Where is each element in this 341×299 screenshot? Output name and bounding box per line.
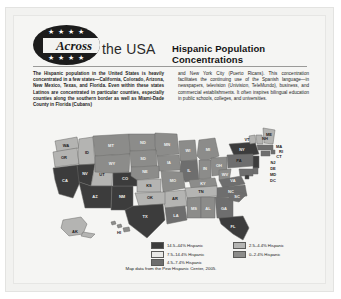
map-figure: WA OR ID MT ND MN WI MI NY VT NH ME	[33, 124, 309, 274]
state-MA	[257, 145, 273, 150]
label-GA: GA	[221, 206, 227, 211]
label-SD: SD	[140, 156, 146, 161]
label-ND: ND	[140, 140, 146, 145]
label-LA: LA	[173, 213, 178, 218]
state-AK-tail	[81, 232, 95, 238]
label-MS: MS	[191, 206, 197, 211]
label-OH: OH	[216, 163, 222, 168]
state-HI-2	[117, 224, 122, 228]
legend-label: 14.5–44% Hispanic	[167, 243, 203, 248]
label-DE: DE	[270, 166, 276, 171]
article-headline: Hispanic Population Concentrations	[172, 43, 325, 65]
legend-swatch	[233, 251, 246, 258]
label-MD: MD	[270, 172, 276, 177]
label-WY: WY	[109, 161, 116, 166]
legend-label: 2.5–4.4% Hispanic	[249, 243, 284, 248]
label-WV: WV	[222, 172, 229, 177]
logo-word: Across	[43, 38, 100, 53]
label-NY: NY	[239, 147, 245, 152]
screenshot-root: ★ ★ ★ ★ Across Across ★ ★ ★ ★ the USA Hi…	[0, 0, 341, 299]
map-caption: Map data from the Pew Hispanic Center, 2…	[33, 266, 309, 271]
label-UT: UT	[99, 172, 105, 177]
article-header: ★ ★ ★ ★ Across Across ★ ★ ★ ★ the USA Hi…	[14, 24, 325, 68]
label-VA: VA	[230, 178, 235, 183]
legend-column-1: 14.5–44% Hispanic 7.5–14.4% Hispanic 4.5…	[151, 242, 204, 268]
state-DC	[245, 175, 249, 179]
label-AL: AL	[205, 206, 211, 211]
scanned-page: ★ ★ ★ ★ Across Across ★ ★ ★ ★ the USA Hi…	[6, 8, 333, 291]
label-NC: NC	[228, 189, 234, 194]
legend-swatch	[151, 251, 164, 258]
label-DC: DC	[270, 178, 276, 183]
legend-item: 2.5–4.4% Hispanic	[233, 242, 284, 249]
legend-swatch	[151, 242, 164, 249]
label-NJ: NJ	[270, 160, 275, 165]
legend-column-2: 2.5–4.4% Hispanic 0–2.4% Hispanic	[233, 242, 284, 259]
header-divider	[33, 66, 307, 67]
label-CO: CO	[122, 176, 128, 181]
logo-stars-top-icon: ★ ★ ★ ★	[33, 28, 100, 36]
label-MI: MI	[206, 147, 210, 152]
legend-item: 7.5–14.4% Hispanic	[151, 251, 204, 258]
legend-label: 7.5–14.4% Hispanic	[167, 252, 204, 257]
label-ID: ID	[85, 150, 89, 155]
label-AK: AK	[72, 229, 78, 234]
state-HI-1	[111, 221, 116, 225]
label-AR: AR	[172, 196, 178, 201]
label-WI: WI	[186, 148, 191, 153]
state-NJ	[253, 156, 259, 168]
label-IL: IL	[187, 168, 191, 173]
legend-item: 0–2.4% Hispanic	[233, 251, 284, 258]
label-WA: WA	[63, 143, 70, 148]
label-NM: NM	[119, 194, 126, 199]
label-OK: OK	[147, 195, 153, 200]
label-IA: IA	[167, 160, 171, 165]
label-FL: FL	[231, 224, 236, 229]
state-CT	[261, 151, 270, 156]
label-HI: HI	[117, 230, 121, 235]
label-MO: MO	[170, 178, 176, 183]
label-TX: TX	[142, 214, 147, 219]
label-SC: SC	[234, 194, 240, 199]
label-NV: NV	[82, 171, 88, 176]
state-HI-3	[123, 227, 130, 232]
label-CA: CA	[62, 178, 68, 183]
label-MN: MN	[164, 142, 170, 147]
state-RI	[271, 150, 275, 154]
body-column-left: The Hispanic population in the United St…	[33, 71, 164, 108]
label-KS: KS	[146, 183, 152, 188]
body-column-right: and New York City (Puerto Ricans). This …	[178, 71, 309, 102]
usa-choropleth-map: WA OR ID MT ND MN WI MI NY VT NH ME	[33, 124, 309, 250]
state-TX	[125, 204, 165, 238]
legend-swatch	[151, 259, 164, 266]
logo-wordplate: Across	[43, 38, 100, 53]
legend-label: 0–2.4% Hispanic	[249, 252, 280, 257]
legend-label: 4.5–7.4% Hispanic	[167, 260, 202, 265]
label-OR: OR	[61, 155, 67, 160]
label-IN: IN	[203, 166, 207, 171]
label-MT: MT	[108, 143, 114, 148]
across-the-usa-logo: ★ ★ ★ ★ Across Across ★ ★ ★ ★	[33, 25, 100, 65]
legend-swatch	[233, 242, 246, 249]
page-content: ★ ★ ★ ★ Across Across ★ ★ ★ ★ the USA Hi…	[14, 16, 325, 283]
legend-item: 14.5–44% Hispanic	[151, 242, 204, 249]
label-CT: CT	[276, 154, 282, 159]
label-PA: PA	[236, 158, 241, 163]
label-TN: TN	[198, 189, 203, 194]
logo-stars-bottom-icon: ★ ★ ★ ★	[33, 54, 100, 62]
label-VT: VT	[244, 137, 250, 142]
logo-tail-text: the USA	[102, 41, 156, 57]
label-ME: ME	[266, 132, 272, 137]
legend-item: 4.5–7.4% Hispanic	[151, 259, 204, 266]
state-VT	[249, 135, 256, 144]
label-KY: KY	[200, 181, 206, 186]
page-inner-frame: ★ ★ ★ ★ Across Across ★ ★ ★ ★ the USA Hi…	[13, 15, 326, 284]
state-DE	[253, 168, 258, 174]
label-NE: NE	[142, 169, 148, 174]
label-AZ: AZ	[92, 194, 98, 199]
